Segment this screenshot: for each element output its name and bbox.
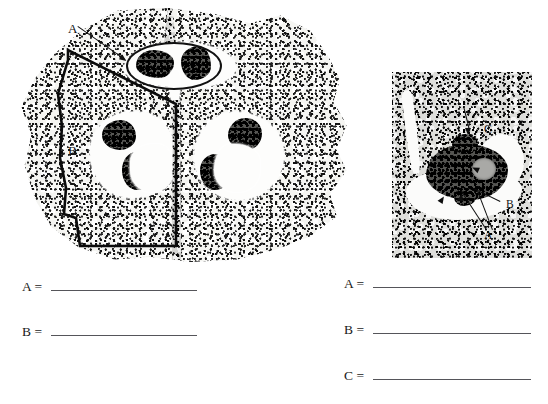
left-answer-key-b: B = [22, 324, 42, 340]
figure2-label-b: B [506, 199, 514, 211]
right-answer-key-a: A = [344, 276, 364, 292]
ovule-left-upper [102, 120, 136, 150]
closeup-arrowhead-c [465, 128, 471, 135]
locule-right-swirl [214, 144, 260, 192]
right-answer-input-b[interactable] [373, 322, 531, 334]
right-answer-row-b: B = [344, 322, 531, 338]
right-answer-row-a: A = [344, 276, 531, 292]
left-answer-input-a[interactable] [51, 279, 197, 291]
left-answer-row-a: A = [22, 279, 197, 295]
annotation-ellipse-a [126, 42, 222, 90]
left-answer-row-b: B = [22, 324, 197, 340]
right-answer-input-c[interactable] [373, 368, 531, 380]
left-answer-key-a: A = [22, 279, 42, 295]
figure1-label-b: B [68, 144, 77, 157]
right-answer-input-a[interactable] [373, 276, 531, 288]
closeup-ovule-nucellus [452, 134, 478, 154]
right-answer-key-b: B = [344, 322, 364, 338]
left-answer-input-b[interactable] [51, 324, 197, 336]
ovary-cross-section-micrograph: A B [18, 8, 350, 262]
figure1-label-a: A [68, 22, 78, 35]
locule-left-swirl [130, 144, 174, 192]
worksheet-page: A B C B A A = B [0, 0, 548, 404]
figure2-label-c: C [484, 124, 492, 136]
septum-vertical [172, 100, 181, 260]
right-answer-key-c: C = [344, 368, 364, 384]
figure2-label-a: A [484, 230, 493, 242]
ovule-closeup-micrograph [392, 72, 532, 258]
right-answer-row-c: C = [344, 368, 531, 384]
